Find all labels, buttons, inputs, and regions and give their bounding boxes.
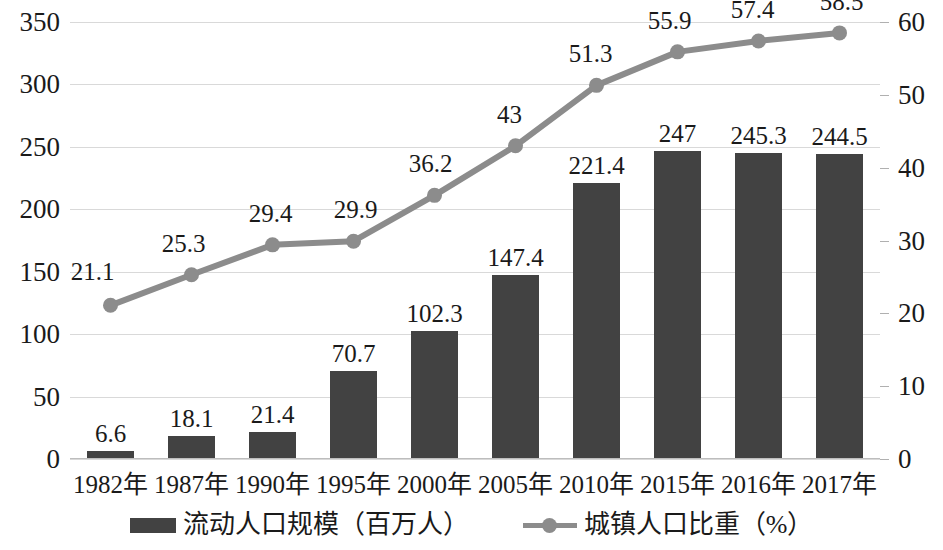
line-marker-swatch-icon	[523, 517, 577, 533]
x-axis-tick-label: 2000年	[397, 472, 472, 497]
y2-axis-tick-label: 20	[898, 300, 925, 327]
x-axis-tick-label: 2017年	[802, 472, 877, 497]
y-axis-tick-label: 50	[33, 383, 60, 410]
y2-axis-tick-label: 50	[898, 81, 925, 108]
chart-legend: 流动人口规模（百万人） 城镇人口比重（%）	[0, 512, 943, 538]
y2-axis-tick-mark	[880, 22, 889, 23]
legend-item-bar[interactable]: 流动人口规模（百万人）	[130, 512, 469, 538]
x-axis-tick-label: 1982年	[73, 472, 148, 497]
y2-axis-tick-mark	[880, 241, 889, 242]
line-marker	[184, 267, 199, 282]
line-marker	[103, 298, 118, 313]
line-marker	[832, 25, 847, 40]
y2-axis-tick-label: 30	[898, 227, 925, 254]
line-value-label: 29.4	[249, 201, 293, 226]
line-value-label: 25.3	[162, 231, 206, 256]
y2-axis-tick-mark	[880, 386, 889, 387]
line-path	[111, 33, 840, 305]
line-marker	[751, 33, 766, 48]
y2-axis-tick-mark	[880, 168, 889, 169]
bar-value-label: 245.3	[730, 123, 786, 148]
y-axis-tick-label: 100	[20, 321, 61, 348]
legend-item-line[interactable]: 城镇人口比重（%）	[523, 512, 814, 538]
line-marker	[589, 78, 604, 93]
line-marker	[265, 237, 280, 252]
bar-value-label: 70.7	[332, 341, 376, 366]
line-value-label: 29.9	[334, 197, 378, 222]
x-axis-baseline	[70, 458, 880, 459]
line-value-label: 58.5	[820, 0, 864, 14]
line-value-label: 51.3	[569, 41, 613, 66]
line-value-label: 57.4	[731, 0, 775, 22]
line-marker	[508, 138, 523, 153]
bar-value-label: 102.3	[406, 301, 462, 326]
x-axis-tick-label: 2016年	[721, 472, 796, 497]
y2-axis-tick-label: 60	[898, 9, 925, 36]
y2-axis-tick-label: 10	[898, 373, 925, 400]
legend-label-bar: 流动人口规模（百万人）	[183, 512, 469, 538]
y-axis-tick-label: 0	[47, 446, 61, 473]
legend-label-line: 城镇人口比重（%）	[584, 512, 814, 538]
x-axis-tick-label: 2015年	[640, 472, 715, 497]
line-marker	[346, 234, 361, 249]
y2-axis-tick-label: 40	[898, 154, 925, 181]
bar-swatch-icon	[130, 518, 176, 533]
x-axis-tick-label: 1987年	[154, 472, 229, 497]
bar-value-label: 147.4	[487, 245, 543, 270]
line-value-label: 36.2	[409, 151, 453, 176]
line-value-label: 55.9	[648, 8, 692, 33]
bar-value-label: 244.5	[811, 124, 867, 149]
gridline	[70, 459, 880, 460]
x-axis-tick-label: 2005年	[478, 472, 553, 497]
chart-container: 050100150200250300350 0102030405060 1982…	[0, 0, 943, 550]
y-axis-tick-label: 150	[20, 258, 61, 285]
bar-value-label: 21.4	[251, 402, 295, 427]
bar-value-label: 6.6	[95, 421, 126, 446]
x-axis-tick-label: 1995年	[316, 472, 391, 497]
bar-value-label: 221.4	[568, 153, 624, 178]
line-marker	[427, 188, 442, 203]
y-axis-tick-label: 200	[20, 196, 61, 223]
y-axis-tick-label: 300	[20, 71, 61, 98]
y2-axis-tick-mark	[880, 95, 889, 96]
y-axis-tick-label: 350	[20, 9, 61, 36]
line-marker	[670, 44, 685, 59]
line-value-label: 43	[497, 102, 522, 127]
x-axis-tick-label: 1990年	[235, 472, 310, 497]
line-value-label: 21.1	[71, 259, 115, 284]
y2-axis-tick-mark	[880, 313, 889, 314]
y2-axis-tick-mark	[880, 459, 889, 460]
y2-axis-tick-label: 0	[898, 446, 912, 473]
bar-value-label: 247	[659, 121, 697, 146]
y-axis-tick-label: 250	[20, 133, 61, 160]
x-axis-tick-label: 2010年	[559, 472, 634, 497]
bar-value-label: 18.1	[170, 406, 214, 431]
